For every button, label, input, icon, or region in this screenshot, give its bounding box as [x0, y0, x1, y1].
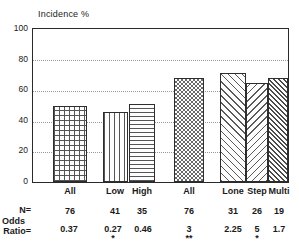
- bar-step: [246, 83, 268, 183]
- y-tick-label-20: 20: [0, 146, 28, 155]
- odds-value-multi: 1.7: [259, 224, 299, 235]
- chart-root: Incidence % 100 80 60 40 20 0 All Low Hi…: [0, 0, 299, 246]
- bar-all-left: [53, 106, 87, 183]
- chart-title: Incidence %: [38, 9, 89, 19]
- odds-value-high: 0.46: [121, 224, 165, 235]
- bar-multi: [268, 78, 288, 182]
- bar-high: [129, 104, 155, 182]
- y-tick-label-100: 100: [0, 24, 28, 33]
- y-tick-label-0: 0: [0, 177, 28, 186]
- n-value-all-right: 76: [169, 206, 209, 217]
- odds-number-multi: 1.7: [273, 224, 286, 234]
- x-label-all-right: All: [169, 186, 209, 197]
- n-value-high: 35: [122, 206, 162, 217]
- odds-significance-low: *: [91, 235, 135, 241]
- bars-layer: [33, 29, 288, 182]
- x-axis-labels: All Low High All Lone Step Multi: [33, 186, 288, 200]
- n-row-label: N=: [0, 206, 31, 215]
- x-label-high: High: [122, 186, 162, 197]
- y-tick-label-60: 60: [0, 85, 28, 94]
- odds-ratio-row: 0.37 0.27 * 0.46 3 ** 2.25 5 * 1.7: [33, 224, 288, 238]
- bar-all-right: [174, 78, 204, 182]
- n-value-multi: 19: [259, 206, 299, 217]
- y-tick-label-40: 40: [0, 116, 28, 125]
- odds-row-label-line2: Ratio=: [0, 227, 31, 236]
- odds-value-all-right: 3 **: [169, 224, 209, 241]
- odds-number-all-left: 0.37: [60, 224, 78, 234]
- odds-significance-all-right: **: [169, 235, 209, 241]
- x-label-all-left: All: [50, 186, 90, 197]
- x-label-multi: Multi: [259, 186, 299, 197]
- y-tick-label-80: 80: [0, 55, 28, 64]
- bar-low: [103, 112, 128, 182]
- odds-value-all-left: 0.37: [47, 224, 91, 235]
- n-values-row: 76 41 35 76 31 26 19: [33, 206, 288, 220]
- odds-number-high: 0.46: [134, 224, 152, 234]
- n-value-all-left: 76: [50, 206, 90, 217]
- bar-lone: [220, 73, 246, 182]
- odds-row-label-line1: Odds: [0, 217, 33, 226]
- odds-significance-step: *: [237, 235, 277, 241]
